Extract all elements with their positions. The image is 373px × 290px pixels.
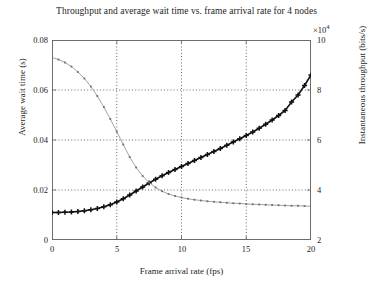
- data-point-marker: [69, 209, 74, 214]
- right-axis-exponent-power: 4: [326, 23, 329, 30]
- series-line: [52, 58, 311, 207]
- data-point-marker: [90, 86, 92, 88]
- ytick-label-right-2: 6: [317, 135, 357, 145]
- data-point-marker: [304, 205, 306, 207]
- xtick-label-1: 5: [102, 244, 132, 254]
- data-point-marker: [265, 204, 267, 206]
- data-point-marker: [161, 190, 163, 192]
- data-point-marker: [310, 205, 311, 207]
- data-point-marker: [135, 167, 137, 169]
- data-point-marker: [258, 204, 260, 206]
- data-point-marker: [198, 155, 203, 160]
- data-point-marker: [88, 207, 93, 212]
- data-point-marker: [252, 203, 254, 205]
- data-point-marker: [116, 131, 118, 133]
- data-point-marker: [181, 197, 183, 199]
- data-point-marker: [239, 203, 241, 205]
- data-point-marker: [166, 170, 171, 175]
- data-point-marker: [75, 209, 80, 214]
- y-axis-label-right: Instantaneous throughput (bits/s): [357, 0, 367, 185]
- data-point-marker: [168, 193, 170, 195]
- data-point-marker: [52, 210, 55, 215]
- data-point-marker: [122, 144, 124, 146]
- data-point-marker: [114, 199, 119, 204]
- data-point-marker: [187, 198, 189, 200]
- data-point-marker: [226, 202, 228, 204]
- data-point-marker: [278, 204, 280, 206]
- ytick-label-left-1: 0.02: [4, 185, 48, 195]
- data-point-marker: [148, 182, 150, 184]
- data-point-marker: [219, 201, 221, 203]
- chart-title: Throughput and average wait time vs. fra…: [0, 6, 373, 16]
- data-point-marker: [213, 201, 215, 203]
- data-point-marker: [179, 164, 184, 169]
- data-point-marker: [232, 202, 234, 204]
- data-point-marker: [129, 156, 131, 158]
- data-point-marker: [155, 187, 157, 189]
- data-point-marker: [207, 200, 209, 202]
- data-point-marker: [211, 149, 216, 154]
- ytick-label-right-4: 10: [317, 35, 357, 45]
- data-point-marker: [200, 200, 202, 202]
- data-point-marker: [142, 175, 144, 177]
- data-point-marker: [284, 205, 286, 207]
- data-point-marker: [83, 78, 85, 80]
- data-point-marker: [245, 203, 247, 205]
- xtick-label-0: 0: [37, 244, 67, 254]
- data-point-marker: [109, 118, 111, 120]
- data-point-marker: [205, 152, 210, 157]
- data-point-marker: [56, 210, 61, 215]
- data-point-marker: [71, 66, 73, 68]
- xtick-label-4: 20: [296, 244, 326, 254]
- y-axis-label-left: Average wait time (s): [17, 27, 27, 167]
- data-point-marker: [174, 195, 176, 197]
- data-point-marker: [82, 208, 87, 213]
- data-point-marker: [58, 59, 60, 61]
- data-point-marker: [185, 161, 190, 166]
- data-point-marker: [96, 95, 98, 97]
- ytick-label-right-3: 8: [317, 85, 357, 95]
- data-point-marker: [64, 62, 66, 64]
- data-point-marker: [101, 204, 106, 209]
- data-point-marker: [77, 71, 79, 73]
- data-point-marker: [271, 204, 273, 206]
- data-point-marker: [291, 205, 293, 207]
- data-point-marker: [237, 136, 242, 141]
- data-point-marker: [297, 205, 299, 207]
- data-point-marker: [103, 106, 105, 108]
- plot-canvas: [52, 40, 311, 240]
- data-point-marker: [108, 202, 113, 207]
- ytick-label-right-1: 4: [317, 185, 357, 195]
- data-point-marker: [224, 143, 229, 148]
- xtick-label-3: 15: [231, 244, 261, 254]
- data-point-marker: [192, 158, 197, 163]
- chart-figure: Throughput and average wait time vs. fra…: [0, 0, 373, 290]
- x-axis-label: Frame arrival rate (fps): [52, 266, 311, 276]
- right-axis-exponent-base: ×10: [313, 25, 326, 35]
- data-point-marker: [52, 57, 53, 59]
- right-axis-exponent: ×104: [313, 23, 330, 35]
- data-point-marker: [194, 199, 196, 201]
- data-point-marker: [62, 210, 67, 215]
- xtick-label-2: 10: [167, 244, 197, 254]
- data-point-marker: [95, 206, 100, 211]
- data-point-marker: [218, 146, 223, 151]
- series-line: [52, 75, 311, 213]
- data-point-marker: [172, 167, 177, 172]
